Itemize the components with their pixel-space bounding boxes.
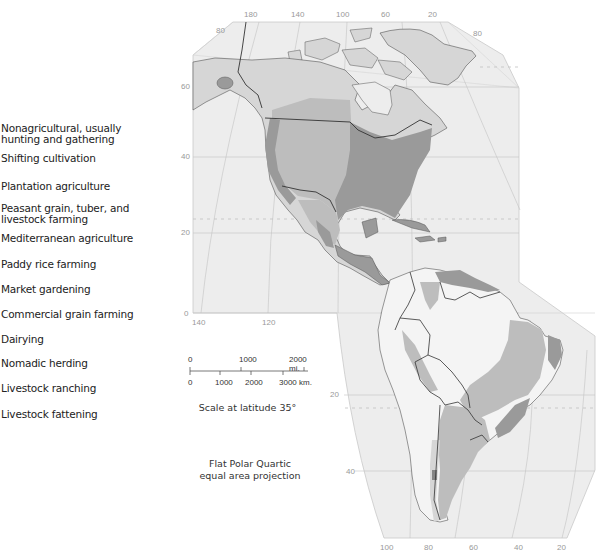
scale-mi-0: 0	[188, 355, 192, 364]
lat-tick-40: 40	[181, 152, 190, 161]
lat-tick-20: 20	[181, 228, 190, 237]
lon-tick-60: 60	[381, 10, 390, 19]
lat-tick-60: 60	[181, 82, 190, 91]
lon-tick-140-mid: 140	[192, 318, 206, 327]
lat-tick-80-left: 80	[216, 26, 225, 35]
lon-tick-60-bottom: 60	[469, 543, 478, 552]
lon-tick-20-bottom: 20	[557, 543, 566, 552]
lon-tick-120-mid: 120	[262, 318, 276, 327]
scale-km-1000: 1000	[215, 378, 233, 387]
lon-tick-180: 180	[244, 10, 258, 19]
lat-tick-0: 0	[184, 309, 189, 318]
lon-tick-140: 140	[291, 10, 305, 19]
scale-km-0: 0	[188, 378, 192, 387]
scale-line	[188, 366, 313, 376]
scale-caption: Scale at latitude 35°	[190, 402, 305, 413]
lon-tick-100: 100	[336, 10, 350, 19]
lon-tick-80-bottom: 80	[424, 543, 433, 552]
lon-tick-40-bottom: 40	[514, 543, 523, 552]
projection-name: Flat Polar Quartic	[190, 458, 310, 469]
lon-tick-20: 20	[428, 10, 437, 19]
scale-mi-1000: 1000	[239, 355, 257, 364]
scale-km-2000: 2000	[245, 378, 263, 387]
projection-type: equal area projection	[190, 470, 310, 481]
scale-bar: 0 1000 2000 mi. 0 1000 2000 3000 km.	[188, 355, 318, 395]
lon-tick-100-bottom: 100	[380, 543, 394, 552]
lat-tick-80-right: 80	[473, 29, 482, 38]
lat-tick-20-south: 20	[330, 390, 339, 399]
scale-km-3000: 3000 km.	[279, 378, 312, 387]
lat-tick-40-south: 40	[346, 467, 355, 476]
